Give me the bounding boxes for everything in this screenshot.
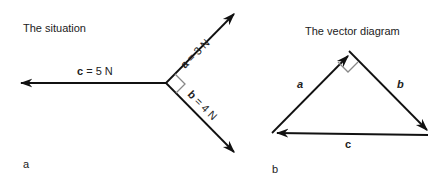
triangle-label-a: a: [297, 78, 303, 90]
triangle-label-b: b: [397, 78, 404, 90]
vector-c-value: 5 N: [96, 65, 113, 77]
vector-c-eq: =: [86, 65, 92, 77]
situation-diagram: [21, 14, 234, 152]
triangle-side-a: [272, 56, 348, 133]
situation-title: The situation: [23, 22, 86, 34]
right-angle-marker: [175, 74, 185, 93]
panel-b-label: b: [272, 163, 278, 175]
vector-c-name: c: [77, 65, 83, 77]
vector-diagram-title: The vector diagram: [305, 25, 400, 37]
triangle-side-b-line: [349, 51, 427, 130]
triangle-side-c: [277, 133, 428, 135]
vector-c-label: c = 5 N: [77, 65, 113, 77]
triangle-label-c: c: [345, 138, 351, 150]
vector-triangle: [272, 51, 428, 135]
panel-a-label: a: [23, 158, 29, 170]
